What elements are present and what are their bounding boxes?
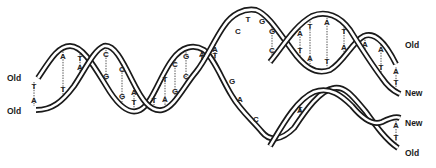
label-old-right-4: Old — [405, 148, 419, 158]
label-old-bottom-left: Old — [7, 106, 21, 116]
base-letter: T — [342, 27, 347, 36]
base-letter: T — [61, 85, 66, 94]
base-letter: A — [297, 29, 303, 38]
base-letter: G — [103, 72, 109, 81]
base-letter: T — [132, 98, 137, 107]
base-letter: A — [393, 67, 399, 76]
label-old-top-left: Old — [7, 73, 21, 83]
base-letter: A — [393, 121, 399, 130]
unpaired-base: A — [237, 95, 243, 104]
base-letter: C — [103, 50, 109, 59]
base-letter: G — [119, 92, 125, 101]
base-letter: T — [308, 22, 313, 31]
unpaired-base: G — [259, 17, 265, 26]
unpaired-base: C — [253, 115, 259, 124]
label-old-right-1: Old — [405, 40, 419, 50]
base-letter: A — [131, 88, 137, 97]
helix-drawing: TAATTACGCGATTTACGGCTAATGCATTAATTAAATATAT… — [0, 0, 436, 168]
base-letter: T — [32, 82, 37, 91]
base-letter: G — [172, 87, 178, 96]
base-letter: G — [183, 52, 189, 61]
base-letter: C — [269, 46, 275, 55]
base-letter: G — [269, 27, 275, 36]
unpaired-base: C — [235, 27, 241, 36]
base-letters: TAATTACGCGATTTACGGCTAATGCATTAATTAAATATAT… — [31, 15, 399, 141]
unpaired-base: T — [246, 15, 251, 24]
base-letter: A — [162, 95, 168, 104]
base-letter: A — [324, 18, 330, 27]
label-new-right-2: New — [405, 88, 422, 98]
base-letter: A — [60, 52, 66, 61]
base-letter: A — [199, 50, 205, 59]
base-letter: C — [119, 65, 125, 74]
base-letter: C — [172, 60, 178, 69]
base-letter: T — [213, 51, 218, 60]
base-letter: T — [298, 46, 303, 55]
base-letter: T — [325, 57, 330, 66]
base-letter: A — [307, 54, 313, 63]
base-letter: T — [298, 105, 303, 114]
base-letter: A — [31, 96, 37, 105]
base-letter: A — [378, 45, 384, 54]
base-letter: T — [394, 78, 399, 87]
base-letter: T — [152, 96, 157, 105]
dna-replication-diagram: TAATTACGCGATTTACGGCTAATGCATTAATTAAATATAT… — [0, 0, 436, 168]
base-letter: T — [394, 133, 399, 142]
base-letter: A — [341, 43, 347, 52]
base-letter: A — [362, 40, 368, 49]
base-letter: C — [183, 72, 189, 81]
base-letter: T — [163, 75, 168, 84]
label-new-right-3: New — [405, 118, 422, 128]
base-letter: T — [379, 63, 384, 72]
new-strand-lower — [270, 90, 400, 146]
base-letter: A — [77, 63, 83, 72]
unpaired-base: G — [229, 77, 235, 86]
